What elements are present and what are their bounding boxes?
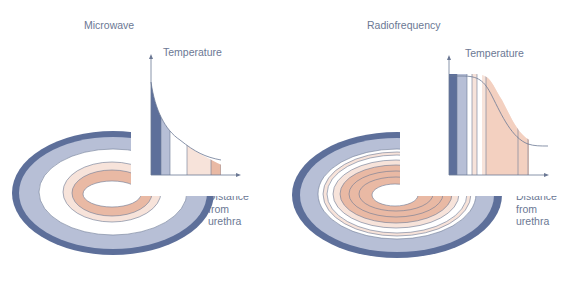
radiofrequency-y-arrow-icon (447, 55, 451, 60)
diagram-canvas (0, 0, 568, 282)
microwave-y-arrow-icon (149, 54, 153, 59)
